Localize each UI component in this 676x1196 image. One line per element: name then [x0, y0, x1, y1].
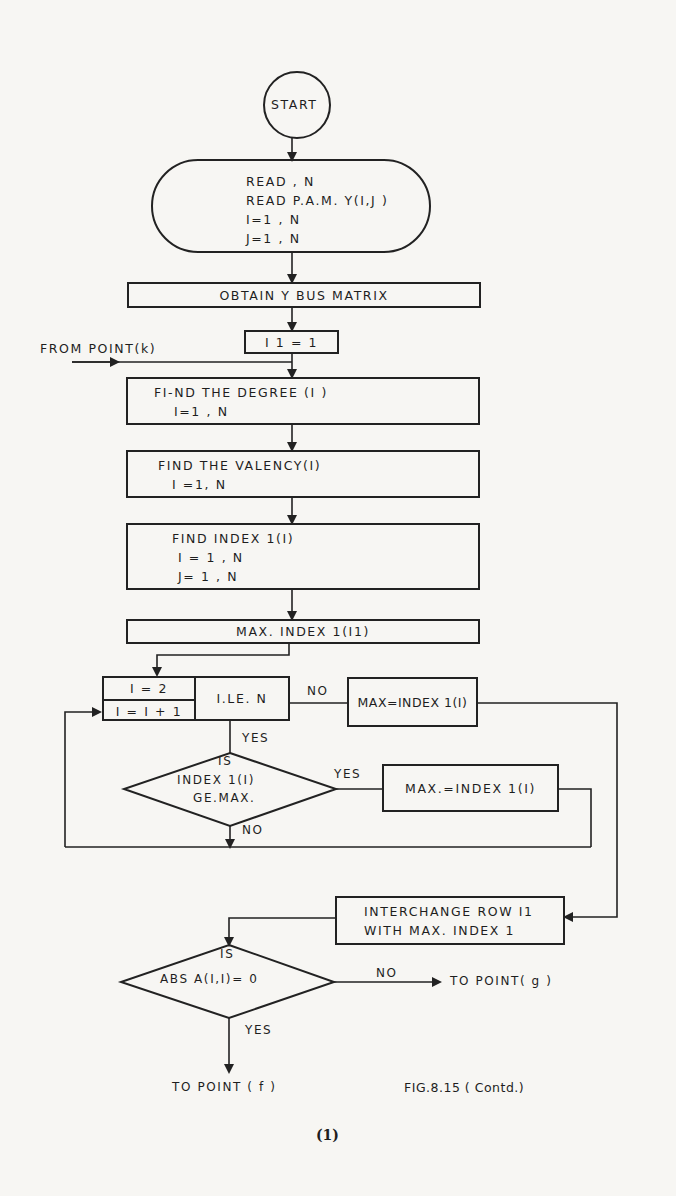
max-assign-box-yes: MAX.=INDEX 1(I) [382, 764, 559, 812]
obtain-ybus-label: OBTAIN Y BUS MATRIX [219, 286, 388, 305]
start-terminal: START [271, 97, 318, 112]
find-valency-line-2: I =1, N [158, 475, 478, 494]
interchange-box: INTERCHANGE ROW I1 WITH MAX. INDEX 1 [335, 896, 565, 945]
no-label-loop: NO [307, 684, 329, 698]
obtain-ybus-box: OBTAIN Y BUS MATRIX [127, 282, 481, 308]
init-i1-box: I 1 = 1 [244, 330, 339, 354]
find-valency-box: FIND THE VALENCY(I) I =1, N [126, 450, 480, 498]
read-line-3: I=1 , N [246, 210, 430, 229]
interchange-line-1: INTERCHANGE ROW I1 [364, 902, 563, 921]
yes-label-loop: YES [242, 731, 269, 745]
figure-sub-label: (1) [316, 1127, 339, 1143]
decision-abs-line-2: ABS A(I,I)= 0 [160, 972, 258, 986]
interchange-line-2: WITH MAX. INDEX 1 [364, 921, 563, 940]
flowchart: START READ , N READ P.A.M. Y(I,J ) I=1 ,… [0, 0, 676, 1196]
no-label-abs: NO [376, 966, 398, 980]
yes-label-decision: YES [334, 767, 361, 781]
no-label-decision: NO [242, 823, 264, 837]
loop-init-label: I = 2 [130, 679, 168, 698]
from-point-k-label: FROM POINT(k) [40, 341, 156, 356]
max-assign-label-yes: MAX.=INDEX 1(I) [405, 779, 536, 798]
figure-caption: FIG.8.15 ( Contd.) [404, 1080, 524, 1095]
decision-abs-line-1: IS [220, 947, 234, 961]
max-assign-box-no: MAX=INDEX 1(I) [347, 677, 478, 727]
find-index-line-1: FIND INDEX 1(I) [172, 529, 478, 548]
to-point-g-label: TO POINT( g ) [450, 974, 553, 988]
max-assign-label-no: MAX=INDEX 1(I) [358, 693, 468, 712]
decision-ge-line-1: IS [218, 754, 232, 768]
max-index-box: MAX. INDEX 1(I1) [126, 619, 480, 644]
find-index-box: FIND INDEX 1(I) I = 1 , N J= 1 , N [126, 523, 480, 590]
read-line-4: J=1 , N [246, 229, 430, 248]
find-index-line-2: I = 1 , N [172, 548, 478, 567]
loop-init-box: I = 2 I = I + 1 [102, 676, 196, 721]
max-index-label: MAX. INDEX 1(I1) [236, 622, 370, 641]
loop-test-label: I.LE. N [216, 689, 267, 708]
loop-incr-cell: I = I + 1 [104, 701, 194, 721]
read-line-2: READ P.A.M. Y(I,J ) [246, 191, 430, 210]
to-point-f-label: TO POINT ( f ) [172, 1080, 277, 1094]
find-degree-line-1: FI-ND THE DEGREE (I ) [154, 383, 478, 402]
decision-ge-line-2: INDEX 1(I) [177, 773, 255, 787]
read-line-1: READ , N [246, 172, 430, 191]
read-input-terminal: READ , N READ P.A.M. Y(I,J ) I=1 , N J=1… [152, 160, 430, 252]
yes-label-abs: YES [245, 1023, 272, 1037]
init-i1-label: I 1 = 1 [265, 333, 318, 352]
decision-ge-line-3: GE.MAX. [193, 791, 256, 805]
find-valency-line-1: FIND THE VALENCY(I) [158, 456, 478, 475]
loop-test-box: I.LE. N [194, 676, 290, 721]
loop-init-cell: I = 2 [104, 678, 194, 701]
find-degree-box: FI-ND THE DEGREE (I ) I=1 , N [126, 377, 480, 425]
find-degree-line-2: I=1 , N [154, 402, 478, 421]
find-index-line-3: J= 1 , N [172, 567, 478, 586]
loop-incr-label: I = I + 1 [116, 702, 183, 721]
